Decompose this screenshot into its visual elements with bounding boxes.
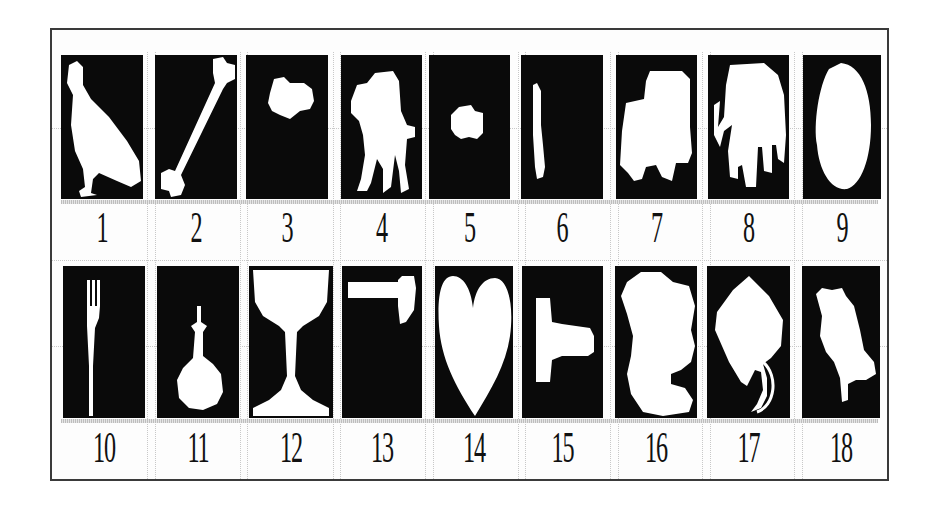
blob-icon [246,55,328,199]
oval-icon [803,55,881,199]
tile-8 [708,55,789,199]
label-14: 14 [453,426,496,470]
tile-16 [615,266,697,418]
bear-icon [615,266,697,418]
tile-15 [522,266,603,418]
label-8: 8 [726,206,771,250]
label-18: 18 [820,426,863,470]
grid-line [610,52,611,479]
heart-icon [435,266,513,418]
label-6: 6 [539,206,584,250]
tile-10 [63,266,145,418]
grid-line [518,52,519,479]
tile-13 [342,266,422,418]
label-4: 4 [359,206,404,250]
tile-1 [61,55,143,199]
grid-line [333,52,334,479]
tile-11 [157,266,239,418]
bone-icon [155,55,237,199]
tile-14 [435,266,513,418]
goblet-icon [249,266,333,418]
tile-17 [707,266,790,418]
label-7: 7 [634,206,679,250]
label-10: 10 [81,426,126,470]
tile-4 [341,55,422,199]
label-2: 2 [173,206,218,250]
grid-line [52,260,887,261]
tile-6 [521,55,603,199]
label-3: 3 [264,206,309,250]
label-15: 15 [540,426,585,470]
bird-icon [61,55,143,199]
bar-icon [521,55,603,199]
grid-line [702,52,703,479]
label-13: 13 [360,426,404,470]
elephant-icon [708,55,789,199]
grid-line [794,52,795,479]
tile-7 [616,55,697,199]
fork-icon [63,266,145,418]
tile-12 [249,266,333,418]
label-16: 16 [633,426,678,470]
label-5: 5 [447,206,492,250]
label-11: 11 [175,426,220,470]
flask-icon [157,266,239,418]
car-icon [429,55,510,199]
truck-icon [616,55,697,199]
grid-line [425,52,426,479]
hammer-icon [342,266,422,418]
tile-3 [246,55,328,199]
camel-icon [341,55,422,199]
tile-5 [429,55,510,199]
tile-18 [802,266,880,418]
label-9: 9 [821,206,864,250]
label-1: 1 [79,206,124,250]
label-17: 17 [726,426,772,470]
key-icon [522,266,603,418]
animal-icon [802,266,880,418]
label-12: 12 [268,426,314,470]
tile-2 [155,55,237,199]
kite-icon [707,266,790,418]
grid-line [147,52,148,479]
tile-9 [803,55,881,199]
grid-line [240,52,241,479]
